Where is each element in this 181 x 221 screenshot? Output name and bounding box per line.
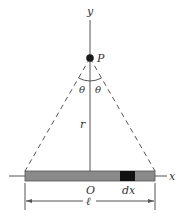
arrowhead-right xyxy=(148,199,154,203)
length-label: ℓ xyxy=(86,195,91,208)
y-axis-label: y xyxy=(86,5,94,18)
dx-label: dx xyxy=(122,184,136,197)
point-p xyxy=(86,54,94,62)
charged-rod xyxy=(25,171,155,181)
point-p-label: P xyxy=(96,52,105,65)
x-axis-label: x xyxy=(169,170,176,183)
theta-left-label: θ xyxy=(79,84,85,95)
theta-right-label: θ xyxy=(95,84,101,95)
arrowhead-left xyxy=(26,199,32,203)
dashed-line-left xyxy=(25,58,90,171)
distance-r-label: r xyxy=(80,118,86,131)
dashed-line-right xyxy=(90,58,155,171)
diagram-canvas: y θ θ P r x O dx ℓ xyxy=(0,0,181,221)
dx-element xyxy=(120,171,135,181)
